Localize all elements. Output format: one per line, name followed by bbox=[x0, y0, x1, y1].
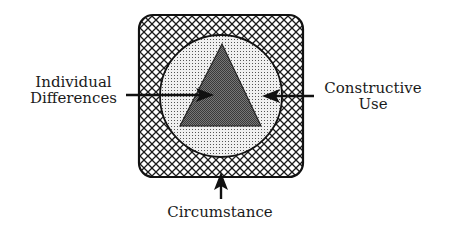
label-circumstance: Circumstance bbox=[155, 204, 285, 220]
label-individual-differences: Individual Differences bbox=[26, 74, 121, 106]
label-constructive-use: Constructive Use bbox=[318, 80, 428, 112]
label-line: Differences bbox=[26, 90, 121, 106]
label-line: Individual bbox=[26, 74, 121, 90]
diagram-canvas bbox=[0, 0, 451, 236]
label-line: Use bbox=[318, 96, 428, 112]
label-line: Constructive bbox=[318, 80, 428, 96]
